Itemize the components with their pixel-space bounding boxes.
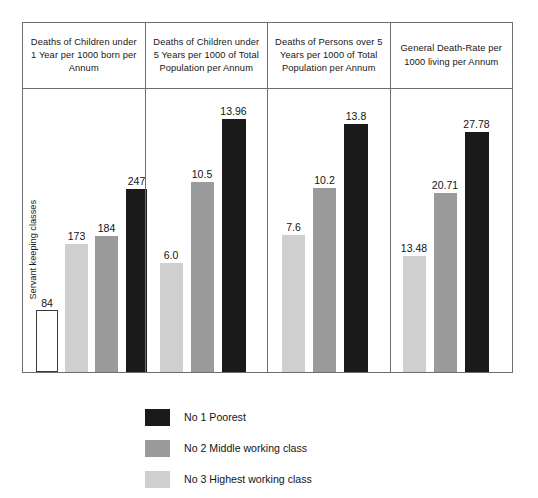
- column-header-band: Deaths of Children under 1 Year per 1000…: [23, 23, 512, 89]
- bar-value-label: 10.2: [314, 175, 334, 186]
- bar-value-label: 13.48: [401, 243, 427, 254]
- bar-value-label: 10.5: [192, 169, 212, 180]
- plot-area: Servant keeping classes 84173184247 6.01…: [23, 89, 512, 372]
- legend-item: No 3 Highest working class: [145, 470, 312, 488]
- bar-value-label: 7.6: [286, 222, 301, 233]
- bar: 20.71: [434, 193, 457, 372]
- bar: 13.48: [403, 256, 426, 372]
- bar: 10.5: [191, 182, 214, 372]
- bar-value-label: 13.96: [220, 106, 246, 117]
- servant-keeping-classes-caption: Servant keeping classes: [29, 200, 38, 300]
- legend-item: No 2 Middle working class: [145, 439, 312, 457]
- legend-label: No 2 Middle working class: [184, 443, 307, 454]
- column-header-deaths-children-under-1: Deaths of Children under 1 Year per 1000…: [23, 23, 145, 88]
- bar-value-label: 247: [128, 176, 146, 187]
- bar-value-label: 6.0: [164, 250, 179, 261]
- column-header-deaths-children-under-5: Deaths of Children under 5 Years per 100…: [145, 23, 268, 88]
- bar: 13.8: [344, 124, 368, 372]
- bar-value-label: 173: [68, 231, 86, 242]
- bar: 13.96: [222, 119, 246, 372]
- bar-group-column-1: Servant keeping classes 84173184247: [23, 89, 145, 372]
- bar-value-label: 13.8: [346, 111, 366, 122]
- bar: 7.6: [282, 235, 305, 372]
- legend-label: No 3 Highest working class: [184, 474, 312, 485]
- bar-group-column-2: 6.010.513.96: [145, 89, 268, 372]
- legend-label: No 1 Poorest: [184, 412, 246, 423]
- bar-value-label: 184: [98, 223, 116, 234]
- bar-group-column-3: 7.610.213.8: [267, 89, 390, 372]
- legend-swatch: [145, 409, 170, 426]
- legend-swatch: [145, 471, 170, 488]
- bar-value-label: 27.78: [463, 119, 489, 130]
- bar: 10.2: [313, 188, 336, 372]
- chart-legend: No 1 PoorestNo 2 Middle working classNo …: [145, 408, 312, 488]
- bar: 6.0: [160, 263, 183, 372]
- column-header-deaths-persons-over-5: Deaths of Persons over 5 Years per 1000 …: [267, 23, 390, 88]
- legend-swatch: [145, 440, 170, 457]
- bar: 173: [65, 244, 88, 372]
- legend-item: No 1 Poorest: [145, 408, 312, 426]
- bar-group-column-4: 13.4820.7127.78: [390, 89, 513, 372]
- bar-value-label: 20.71: [432, 180, 458, 191]
- bar: 84: [36, 310, 58, 372]
- bar-value-label: 84: [41, 298, 53, 309]
- bar: 27.78: [465, 132, 489, 372]
- column-header-general-death-rate: General Death-Rate per 1000 living per A…: [390, 23, 513, 88]
- bar: 184: [95, 236, 118, 372]
- chart-frame: Deaths of Children under 1 Year per 1000…: [22, 22, 513, 373]
